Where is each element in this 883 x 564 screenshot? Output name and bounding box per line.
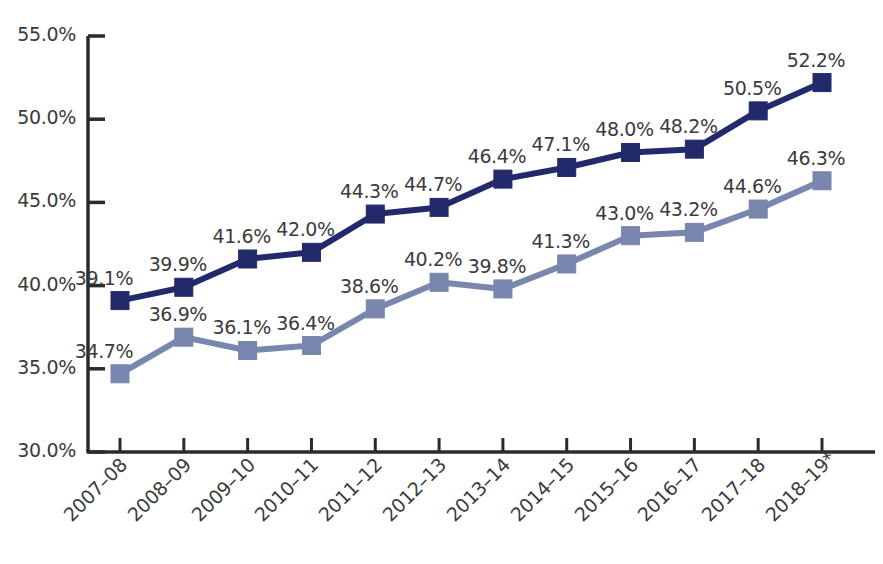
data-point-marker[interactable] bbox=[685, 140, 703, 158]
data-point-label: 40.2% bbox=[399, 248, 467, 270]
data-point-marker[interactable] bbox=[302, 337, 320, 355]
data-point-label: 39.9% bbox=[144, 253, 212, 275]
data-point-label: 44.6% bbox=[718, 175, 786, 197]
data-point-marker[interactable] bbox=[749, 200, 767, 218]
data-point-label: 41.6% bbox=[208, 225, 276, 247]
data-point-label: 39.8% bbox=[463, 255, 531, 277]
data-point-marker[interactable] bbox=[111, 365, 129, 383]
data-point-marker[interactable] bbox=[749, 102, 767, 120]
y-axis-tick-label: 55.0% bbox=[2, 23, 76, 45]
data-point-marker[interactable] bbox=[239, 250, 257, 268]
data-point-marker[interactable] bbox=[622, 227, 640, 245]
data-point-label: 46.4% bbox=[463, 145, 531, 167]
data-point-label: 43.0% bbox=[591, 202, 659, 224]
data-point-label: 43.2% bbox=[654, 198, 722, 220]
data-point-marker[interactable] bbox=[558, 255, 576, 273]
data-point-label: 52.2% bbox=[782, 49, 850, 71]
data-point-label: 44.3% bbox=[335, 180, 403, 202]
data-point-marker[interactable] bbox=[494, 170, 512, 188]
data-point-marker[interactable] bbox=[239, 341, 257, 359]
y-axis-tick-label: 35.0% bbox=[2, 356, 76, 378]
data-point-marker[interactable] bbox=[111, 292, 129, 310]
data-point-label: 36.4% bbox=[271, 312, 339, 334]
data-point-label: 46.3% bbox=[782, 147, 850, 169]
data-point-marker[interactable] bbox=[685, 223, 703, 241]
line-chart: 55.0%50.0%45.0%40.0%35.0%30.0% 2007–0820… bbox=[0, 0, 883, 564]
y-axis-tick-label: 40.0% bbox=[2, 273, 76, 295]
data-point-label: 38.6% bbox=[335, 275, 403, 297]
data-point-marker[interactable] bbox=[813, 172, 831, 190]
data-point-label: 47.1% bbox=[527, 133, 595, 155]
data-point-marker[interactable] bbox=[430, 273, 448, 291]
data-point-label: 44.7% bbox=[399, 173, 467, 195]
data-point-label: 48.0% bbox=[591, 118, 659, 140]
data-point-label: 48.2% bbox=[654, 115, 722, 137]
data-point-label: 39.1% bbox=[70, 267, 138, 289]
data-point-marker[interactable] bbox=[813, 74, 831, 92]
data-point-marker[interactable] bbox=[558, 158, 576, 176]
y-axis-tick-label: 45.0% bbox=[2, 189, 76, 211]
data-point-label: 50.5% bbox=[718, 77, 786, 99]
data-point-marker[interactable] bbox=[430, 198, 448, 216]
data-point-marker[interactable] bbox=[366, 300, 384, 318]
data-point-marker[interactable] bbox=[622, 143, 640, 161]
data-point-marker[interactable] bbox=[175, 278, 193, 296]
data-point-marker[interactable] bbox=[494, 280, 512, 298]
y-axis-tick-label: 50.0% bbox=[2, 106, 76, 128]
data-point-label: 34.7% bbox=[70, 340, 138, 362]
data-point-label: 36.9% bbox=[144, 303, 212, 325]
data-point-label: 36.1% bbox=[208, 316, 276, 338]
data-point-label: 41.3% bbox=[527, 230, 595, 252]
data-point-marker[interactable] bbox=[302, 243, 320, 261]
data-point-marker[interactable] bbox=[175, 328, 193, 346]
y-axis-tick-label: 30.0% bbox=[2, 439, 76, 461]
data-point-label: 42.0% bbox=[271, 218, 339, 240]
data-point-marker[interactable] bbox=[366, 205, 384, 223]
